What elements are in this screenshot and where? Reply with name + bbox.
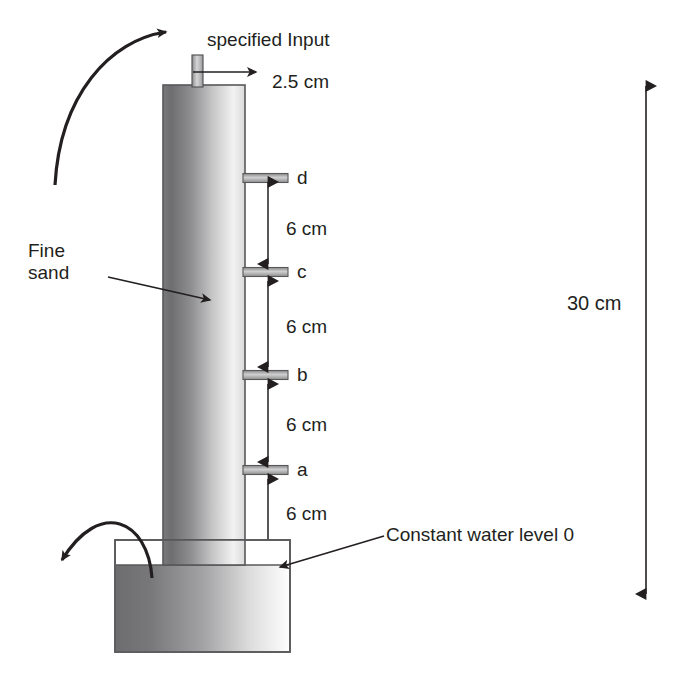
- port-label-a: a: [297, 459, 308, 481]
- port-tube-b: [243, 371, 288, 380]
- sand-column: [163, 85, 245, 565]
- total-height-label: 30 cm: [567, 292, 621, 316]
- figure-canvas: specified Input 2.5 cm Fine sand d c b a…: [0, 0, 694, 679]
- port-label-c: c: [297, 261, 307, 283]
- column-body: [163, 85, 245, 565]
- port-tube-d: [243, 174, 288, 183]
- specified-input-label: specified Input: [207, 29, 330, 51]
- inlet-diameter-label: 2.5 cm: [272, 71, 329, 93]
- spacing-label-d-c: 6 cm: [286, 218, 327, 240]
- constant-water-level-label: Constant water level 0: [386, 524, 574, 546]
- port-label-d: d: [297, 167, 308, 189]
- spacing-label-b-a: 6 cm: [286, 414, 327, 436]
- reservoir-water: [116, 565, 289, 651]
- column-submerged-section: [163, 540, 245, 565]
- port-tube-a: [243, 466, 288, 475]
- spacing-label-a-water: 6 cm: [286, 503, 327, 525]
- reservoir: [115, 540, 290, 652]
- spacing-label-c-b: 6 cm: [286, 316, 327, 338]
- fine-sand-label: Fine sand: [28, 240, 69, 285]
- inlet-tube: [192, 55, 203, 87]
- port-label-b: b: [297, 364, 308, 386]
- port-tube-c: [243, 268, 288, 277]
- inflow-curved-arrow: [55, 32, 166, 185]
- water-level-leader: [280, 536, 384, 567]
- column-apparatus-diagram: [0, 0, 694, 679]
